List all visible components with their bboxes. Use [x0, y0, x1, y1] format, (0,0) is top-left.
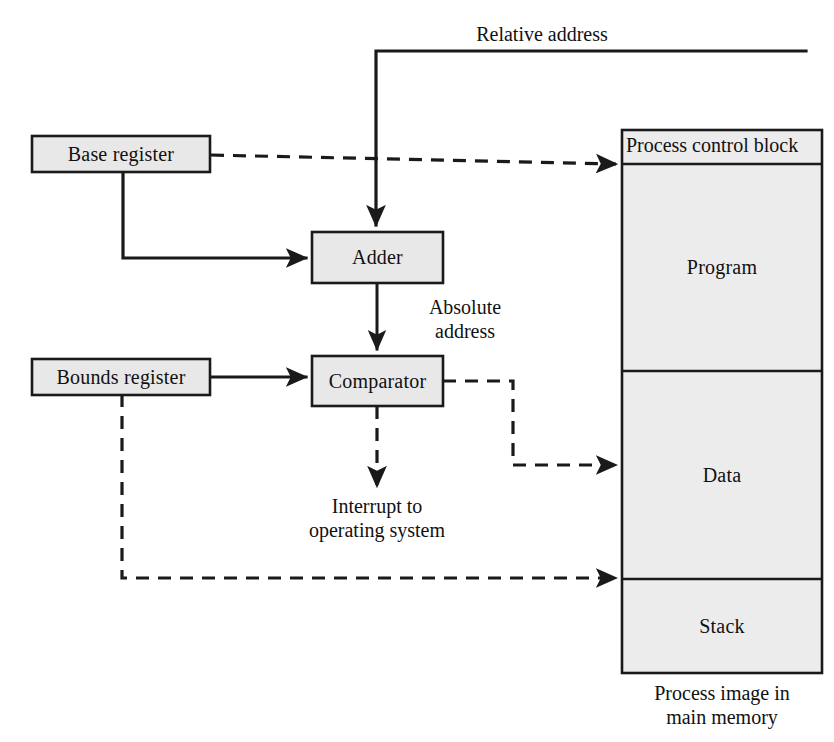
memory-label-process-control-block: Process control block	[626, 134, 798, 156]
box-label-bounds-register: Bounds register	[32, 359, 210, 395]
connector-bounds-register-to-stack	[122, 394, 616, 578]
box-label-base-register: Base register	[32, 136, 210, 172]
memory-label-stack: Stack	[622, 579, 822, 673]
memory-label-data: Data	[622, 371, 822, 579]
diagram-canvas: Base register Bounds register Adder Comp…	[0, 0, 834, 742]
label-interrupt-to-operating-system: Interrupt to operating system	[252, 494, 502, 542]
memory-label-program: Program	[622, 164, 822, 371]
box-label-comparator: Comparator	[312, 356, 443, 406]
connector-base-register-to-adder	[123, 172, 306, 258]
connector-base-register-to-pcb	[211, 155, 616, 164]
connector-comparator-to-data	[443, 381, 616, 465]
label-absolute-address: Absolute address	[390, 295, 540, 343]
box-label-adder: Adder	[312, 232, 443, 283]
caption-process-image: Process image in main memory	[622, 681, 822, 729]
label-relative-address: Relative address	[392, 22, 692, 46]
